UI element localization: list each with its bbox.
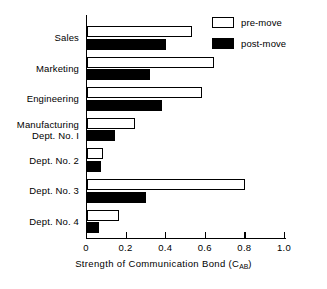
bar-pre-move-4 bbox=[87, 148, 103, 159]
bar-post-move-1 bbox=[87, 69, 150, 80]
y-axis-label-1: Marketing bbox=[36, 63, 79, 74]
bar-post-move-4 bbox=[87, 161, 101, 172]
bar-post-move-0 bbox=[87, 39, 166, 50]
x-axis-title-main: Strength of Communication Bond (C bbox=[75, 258, 239, 269]
y-axis-label-5: Dept. No. 3 bbox=[29, 185, 79, 196]
y-axis-label-line: Dept. No. I bbox=[17, 130, 79, 141]
x-axis-title: Strength of Communication Bond (CAB) bbox=[0, 258, 327, 269]
bar-post-move-6 bbox=[87, 222, 99, 233]
x-tick-1 bbox=[126, 232, 127, 239]
x-tick-2 bbox=[165, 232, 166, 239]
y-axis-label-line: Manufacturing bbox=[17, 119, 79, 130]
y-axis-label-line: Dept. No. 3 bbox=[29, 185, 79, 196]
bar-pre-move-1 bbox=[87, 57, 214, 68]
bar-pre-move-5 bbox=[87, 179, 245, 190]
x-tick-label-3: 0.6 bbox=[198, 242, 212, 253]
y-axis-label-line: Dept. No. 4 bbox=[29, 216, 79, 227]
y-axis-label-line: Dept. No. 2 bbox=[29, 155, 79, 166]
bar-pre-move-2 bbox=[87, 87, 202, 98]
y-axis-label-line: Sales bbox=[54, 32, 79, 43]
y-axis-label-0: Sales bbox=[54, 32, 79, 43]
bar-post-move-3 bbox=[87, 130, 115, 141]
x-axis-title-subscript: AB bbox=[239, 263, 248, 270]
x-tick-3 bbox=[205, 232, 206, 239]
bar-post-move-2 bbox=[87, 100, 162, 111]
y-axis-label-3: ManufacturingDept. No. I bbox=[17, 119, 79, 141]
x-tick-label-4: 0.8 bbox=[237, 242, 251, 253]
y-axis-label-line: Marketing bbox=[36, 63, 79, 74]
x-axis-title-tail: ) bbox=[248, 258, 252, 269]
bar-pre-move-0 bbox=[87, 26, 192, 37]
x-tick-label-2: 0.4 bbox=[158, 242, 172, 253]
y-axis-label-line: Engineering bbox=[27, 93, 79, 104]
y-axis-label-4: Dept. No. 2 bbox=[29, 155, 79, 166]
bar-chart: pre-move post-move SalesMarketingEnginee… bbox=[0, 0, 327, 289]
bar-pre-move-6 bbox=[87, 210, 119, 221]
bar-post-move-5 bbox=[87, 192, 146, 203]
bar-pre-move-3 bbox=[87, 118, 135, 129]
x-tick-label-0: 0 bbox=[83, 242, 89, 253]
y-axis-label-2: Engineering bbox=[27, 93, 79, 104]
x-tick-4 bbox=[244, 232, 245, 239]
x-tick-5 bbox=[284, 232, 285, 239]
plot-area bbox=[87, 18, 285, 233]
x-tick-0 bbox=[86, 232, 87, 239]
y-axis-category-labels: SalesMarketingEngineeringManufacturingDe… bbox=[0, 18, 83, 233]
x-tick-label-5: 1.0 bbox=[277, 242, 291, 253]
y-axis-label-6: Dept. No. 4 bbox=[29, 216, 79, 227]
x-axis-line bbox=[86, 238, 286, 239]
x-tick-label-1: 0.2 bbox=[119, 242, 133, 253]
